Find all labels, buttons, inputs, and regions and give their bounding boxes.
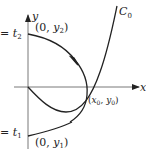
x-axis-label: x (140, 81, 146, 94)
point-bottom-label: (0, y1) (35, 136, 68, 149)
point-intersect-label: (x0, y0) (88, 95, 119, 106)
param-bottom-label: = t1 (0, 126, 22, 140)
direction-arrow-head (71, 57, 78, 65)
point-top-label: (0, y2) (35, 21, 68, 35)
diagram-canvas: y x C0 (0, y2) = t2 (x0, y0) = t1 (0, y1… (0, 0, 146, 149)
trajectory-lower (28, 122, 72, 136)
param-top-label: = t2 (0, 27, 22, 41)
curve-c0-label: C0 (119, 5, 132, 20)
